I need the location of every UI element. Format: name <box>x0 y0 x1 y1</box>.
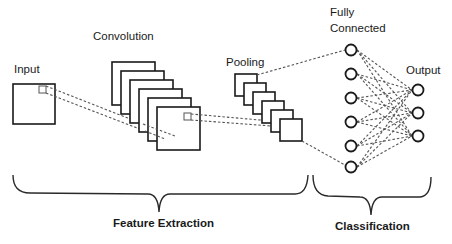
input-stage: Input <box>13 63 55 124</box>
pool-feature-map-6 <box>280 119 302 141</box>
output-node-1 <box>413 85 424 96</box>
fc-node-2 <box>346 69 357 80</box>
fully-connected-label-line2: Connected <box>330 22 386 34</box>
fc-node-5 <box>346 141 357 152</box>
fc-node-3 <box>346 93 357 104</box>
classification-label: Classification <box>335 220 410 232</box>
fc-node-4 <box>346 117 357 128</box>
conv-feature-map-6 <box>157 107 200 150</box>
feature-extraction-label: Feature Extraction <box>113 217 214 229</box>
output-node-3 <box>413 131 424 142</box>
fc-node-1 <box>346 45 357 56</box>
convolution-stage: Convolution <box>93 30 200 150</box>
cnn-diagram: Input Convolution Pooling <box>0 0 452 244</box>
pooling-stage: Pooling <box>226 56 302 141</box>
output-node-2 <box>413 108 424 119</box>
output-label: Output <box>406 64 441 76</box>
feature-extraction-brace: Feature Extraction <box>13 175 308 229</box>
pooling-label: Pooling <box>226 56 264 68</box>
fully-connected-label-line1: Fully <box>330 6 355 18</box>
input-image <box>13 84 55 124</box>
fc-to-output-connections <box>357 50 412 167</box>
fc-node-6 <box>346 162 357 173</box>
output-stage: Output <box>406 64 441 142</box>
classification-brace: Classification <box>313 175 431 232</box>
input-label: Input <box>14 63 40 75</box>
convolution-label: Convolution <box>93 30 154 42</box>
